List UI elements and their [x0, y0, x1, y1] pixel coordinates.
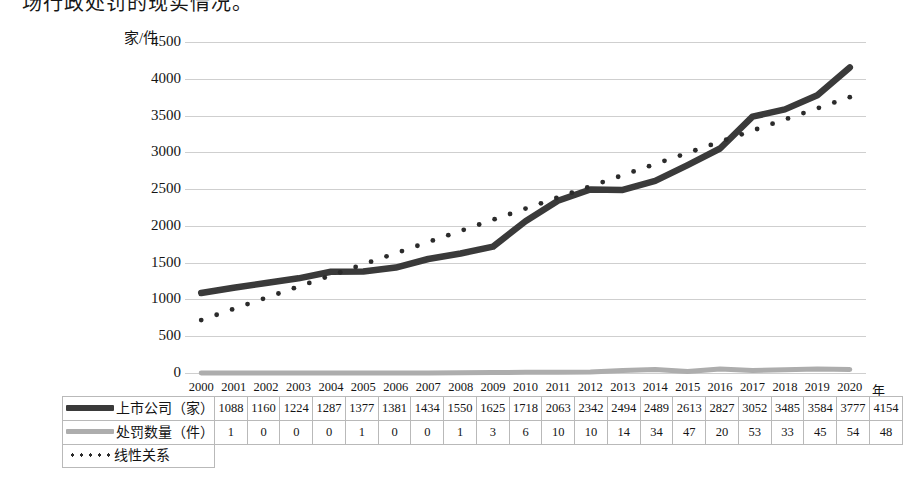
table-footer-spacer [247, 444, 280, 468]
series-lines [185, 42, 866, 373]
table-header-row [63, 374, 903, 397]
y-axis-tick-label: 3500 [137, 108, 181, 123]
series-label: 线性关系 [114, 445, 170, 467]
table-header-spacer [771, 374, 804, 397]
table-footer-row: 线性关系 [63, 444, 903, 468]
table-footer-spacer [575, 444, 608, 468]
table-row: 处罚数量（件）10001001361010143447205333455448 [63, 420, 903, 444]
table-header-corner [63, 374, 215, 397]
table-header-spacer [509, 374, 542, 397]
series-line-listed-companies [201, 67, 850, 293]
table-footer-spacer [476, 444, 509, 468]
table-cell: 0 [378, 420, 411, 444]
table-footer-spacer [673, 444, 706, 468]
table-cell: 1381 [378, 397, 411, 421]
table-cell: 33 [771, 420, 804, 444]
table-footer-spacer [607, 444, 640, 468]
table-cell: 2342 [575, 397, 608, 421]
data-table: 上市公司（家）108811601224128713771381143415501… [62, 374, 903, 468]
series-label: 处罚数量（件） [116, 422, 214, 444]
table-footer-spacer [280, 444, 313, 468]
table-cell: 1625 [476, 397, 509, 421]
table-cell: 1377 [345, 397, 378, 421]
table-footer-spacer [215, 444, 248, 468]
table-cell: 1287 [313, 397, 346, 421]
table-cell: 48 [869, 420, 902, 444]
table-footer-spacer [313, 444, 346, 468]
table-header-spacer [673, 374, 706, 397]
table-footer-spacer [509, 444, 542, 468]
table-footer-spacer [804, 444, 837, 468]
table-cell: 14 [607, 420, 640, 444]
table-cell: 2489 [640, 397, 673, 421]
table-cell: 1088 [215, 397, 248, 421]
table-footer-spacer [411, 444, 444, 468]
table-cell: 2494 [607, 397, 640, 421]
table-footer-spacer [378, 444, 411, 468]
table-cell: 0 [313, 420, 346, 444]
table-cell: 3584 [804, 397, 837, 421]
trendline-dotted [199, 95, 852, 323]
chart-figure: 家/件 050010001500200025003000350040004500… [0, 18, 903, 378]
table-footer-spacer [869, 444, 902, 468]
table-footer-spacer [771, 444, 804, 468]
table-header-spacer [607, 374, 640, 397]
y-axis-tick-label: 2500 [137, 181, 181, 196]
solid-gray-line-icon [66, 429, 114, 434]
table-cell: 2827 [706, 397, 739, 421]
table-header-spacer [313, 374, 346, 397]
y-axis-tick-label: 1000 [137, 291, 181, 306]
y-axis-tick-label: 1500 [137, 255, 181, 270]
table-cell: 1718 [509, 397, 542, 421]
solid-dark-line-icon [66, 405, 114, 411]
table-header-spacer [444, 374, 477, 397]
table-cell: 2063 [542, 397, 575, 421]
table-row-legend: 处罚数量（件） [63, 420, 215, 444]
table-footer-spacer [345, 444, 378, 468]
table-header-spacer [247, 374, 280, 397]
table-header-spacer [280, 374, 313, 397]
table-footer-spacer [738, 444, 771, 468]
table-header-spacer [345, 374, 378, 397]
y-axis-tick-label: 4000 [137, 71, 181, 86]
table-header-spacer [738, 374, 771, 397]
table-cell: 0 [280, 420, 313, 444]
table-footer-spacer [640, 444, 673, 468]
table-cell: 6 [509, 420, 542, 444]
table-cell: 53 [738, 420, 771, 444]
table-header-spacer [378, 374, 411, 397]
table-cell: 10 [575, 420, 608, 444]
table-cell: 1 [345, 420, 378, 444]
table-cell: 3485 [771, 397, 804, 421]
table-header-spacer [640, 374, 673, 397]
table-row-legend: 上市公司（家） [63, 397, 215, 421]
table-cell: 0 [411, 420, 444, 444]
table-footer-spacer [444, 444, 477, 468]
table-cell: 20 [706, 420, 739, 444]
table-header-spacer [575, 374, 608, 397]
table-header-spacer [411, 374, 444, 397]
table-header-spacer [869, 374, 902, 397]
table-cell: 2613 [673, 397, 706, 421]
table-header-spacer [542, 374, 575, 397]
table-cell: 1550 [444, 397, 477, 421]
table-cell: 54 [837, 420, 870, 444]
table-cell: 47 [673, 420, 706, 444]
table-cell: 10 [542, 420, 575, 444]
y-axis-tick-label: 2000 [137, 218, 181, 233]
series-line-penalties [201, 369, 850, 373]
table-cell: 3 [476, 420, 509, 444]
dotted-line-icon [66, 452, 112, 458]
table-header-spacer [215, 374, 248, 397]
table-cell: 1 [215, 420, 248, 444]
table-cell: 1 [444, 420, 477, 444]
y-axis-tick-label: 4500 [137, 34, 181, 49]
table-cell: 1224 [280, 397, 313, 421]
table-row: 上市公司（家）108811601224128713771381143415501… [63, 397, 903, 421]
table-header-spacer [837, 374, 870, 397]
table-footer-spacer [706, 444, 739, 468]
table-cell: 3052 [738, 397, 771, 421]
table-header-spacer [476, 374, 509, 397]
table-cell: 4154 [869, 397, 902, 421]
y-axis-tick-label: 3000 [137, 144, 181, 159]
